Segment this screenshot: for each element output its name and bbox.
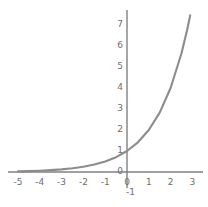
y-tick-label: 3	[111, 104, 123, 113]
y-tick-label: 1	[111, 146, 123, 155]
exponential-curve	[18, 15, 190, 171]
y-tick-label: 6	[111, 41, 123, 50]
y-tick-label: 2	[111, 125, 123, 134]
data-series-group	[18, 15, 190, 171]
x-tick-label: -2	[75, 178, 91, 187]
x-tick-label: 0	[119, 178, 135, 187]
x-tick-label: 2	[163, 178, 179, 187]
x-tick-label: -5	[10, 178, 26, 187]
y-tick-label: -1	[123, 188, 135, 197]
x-tick-label: 1	[141, 178, 157, 187]
y-tick-label: 0	[111, 167, 123, 176]
exponential-function-graph: -5-4-3-2-10123 76543210-1	[0, 0, 208, 207]
plot-area	[0, 0, 208, 207]
y-tick-label: 5	[111, 62, 123, 71]
x-tick-label: -3	[54, 178, 70, 187]
x-tick-label: -1	[97, 178, 113, 187]
y-tick-label: 7	[111, 20, 123, 29]
x-tick-label: -4	[32, 178, 48, 187]
x-tick-label: 3	[184, 178, 200, 187]
y-tick-label: 4	[111, 83, 123, 92]
